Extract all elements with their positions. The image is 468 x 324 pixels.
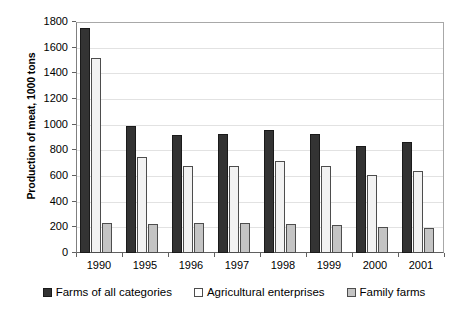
x-tick-label: 2001 — [391, 259, 451, 271]
legend-item[interactable]: Family farms — [347, 286, 426, 298]
x-tick-mark — [214, 253, 215, 257]
x-tick-mark — [76, 253, 77, 257]
x-tick-mark — [352, 253, 353, 257]
bar — [148, 224, 159, 253]
bar — [332, 225, 343, 253]
bar — [378, 227, 389, 253]
bar — [137, 157, 148, 253]
bar — [402, 142, 413, 253]
x-axis-ticks: 19901995199619971998199920002001 — [0, 0, 468, 324]
legend-swatch-icon — [43, 288, 52, 297]
x-tick-mark — [122, 253, 123, 257]
legend-label: Agricultural enterprises — [207, 286, 325, 298]
x-tick-mark — [168, 253, 169, 257]
bar — [310, 134, 321, 253]
bar — [321, 166, 332, 253]
bar — [229, 166, 240, 253]
x-tick-mark — [398, 253, 399, 257]
bar-chart: Production of meat, 1000 tons 0200400600… — [0, 0, 468, 324]
bar — [286, 224, 297, 253]
bar — [275, 161, 286, 253]
legend-label: Family farms — [360, 286, 426, 298]
x-tick-mark — [260, 253, 261, 257]
x-tick-mark — [444, 253, 445, 257]
legend-label: Farms of all categories — [56, 286, 172, 298]
bar — [218, 134, 229, 253]
legend-item[interactable]: Farms of all categories — [43, 286, 172, 298]
bar — [356, 146, 367, 253]
x-tick-mark — [306, 253, 307, 257]
legend-swatch-icon — [194, 288, 203, 297]
bar — [172, 135, 183, 253]
bar — [194, 223, 205, 253]
bar — [424, 228, 435, 253]
bar — [126, 126, 137, 253]
legend: Farms of all categoriesAgricultural ente… — [0, 286, 468, 298]
bar — [80, 28, 91, 253]
bar — [91, 58, 102, 253]
bar — [102, 223, 113, 253]
bar — [367, 175, 378, 253]
legend-swatch-icon — [347, 288, 356, 297]
legend-item[interactable]: Agricultural enterprises — [194, 286, 325, 298]
bar — [183, 166, 194, 253]
bar — [264, 130, 275, 253]
bar — [240, 223, 251, 253]
bar — [413, 171, 424, 253]
